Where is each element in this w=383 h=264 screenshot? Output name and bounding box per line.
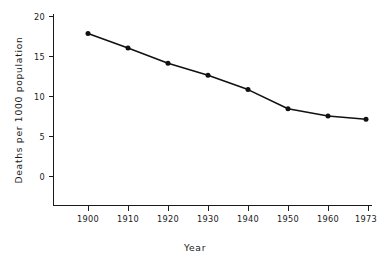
chart-plot-area: 20 15 10 5 0 1900 1910 1920 1930 1940 19…	[0, 0, 383, 264]
x-tick-label-1960: 1960	[317, 214, 339, 224]
x-tick-label-1900: 1900	[77, 214, 99, 224]
y-tick-label-0: 0	[39, 172, 45, 182]
data-point-1900	[86, 31, 91, 36]
data-point-1960	[326, 114, 331, 119]
y-tick-label-20: 20	[34, 12, 45, 22]
x-tick-label-1910: 1910	[117, 214, 139, 224]
data-point-1950	[286, 106, 291, 111]
y-tick-label-15: 15	[34, 52, 45, 62]
x-tick-label-1940: 1940	[237, 214, 259, 224]
x-tick-marks	[89, 206, 369, 212]
data-point-1940	[246, 87, 251, 92]
y-tick-label-5: 5	[39, 132, 45, 142]
data-point-1930	[206, 73, 211, 78]
data-point-1910	[126, 46, 131, 51]
x-axis-title: Year	[183, 242, 206, 253]
data-point-markers	[86, 31, 369, 122]
y-axis-title: Deaths per 1000 population	[13, 36, 24, 183]
x-tick-label-1920: 1920	[157, 214, 179, 224]
line-chart: 20 15 10 5 0 1900 1910 1920 1930 1940 19…	[0, 0, 383, 264]
data-point-1973	[364, 117, 369, 122]
x-tick-label-1930: 1930	[197, 214, 219, 224]
y-tick-marks	[49, 17, 54, 177]
x-tick-label-1950: 1950	[277, 214, 299, 224]
data-point-1920	[166, 61, 171, 66]
y-tick-label-10: 10	[34, 92, 45, 102]
x-tick-label-1973: 1973	[355, 214, 377, 224]
